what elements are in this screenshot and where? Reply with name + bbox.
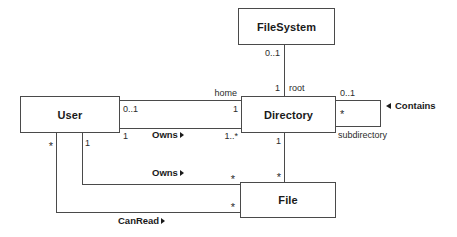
association-name-contains: Contains [395, 101, 436, 111]
multiplicity-directory-contains-upper: 0..1 [340, 88, 355, 98]
role-user-home: home [214, 88, 237, 98]
navigability-triangle-left-icon [386, 103, 391, 109]
multiplicity-file-canread: * [231, 203, 235, 211]
multiplicity-directory-file-bottom: * [277, 173, 281, 181]
class-box-user[interactable]: User [20, 96, 120, 133]
multiplicity-user-owns-file: 1 [85, 138, 90, 148]
association-name-owns-directory: Owns [152, 129, 178, 140]
class-box-directory[interactable]: Directory [241, 96, 336, 133]
class-name-user: User [58, 109, 83, 121]
multiplicity-user-owns-directory: 1 [123, 131, 128, 141]
association-name-owns-file: Owns [152, 167, 178, 178]
association-name-canread: CanRead [118, 215, 159, 226]
role-directory-subdirectory: subdirectory [338, 130, 387, 140]
association-label-owns-file: Owns [152, 168, 184, 178]
uml-class-diagram: FileSystem User Directory File 0..1 1 ro… [0, 0, 457, 237]
class-box-filesystem[interactable]: FileSystem [238, 8, 335, 45]
class-box-file[interactable]: File [240, 182, 336, 218]
multiplicity-user-home: 0..1 [123, 104, 138, 114]
role-directory-root: root [289, 83, 305, 93]
multiplicity-user-canread: * [49, 142, 53, 150]
multiplicity-directory-contains-lower: * [340, 110, 344, 118]
class-name-file: File [278, 194, 297, 206]
multiplicity-file-owns: * [231, 175, 235, 183]
class-name-filesystem: FileSystem [257, 21, 316, 33]
multiplicity-directory-home: 1 [233, 104, 238, 114]
multiplicity-filesystem-root: 0..1 [265, 48, 280, 58]
multiplicity-directory-root: 1 [275, 83, 280, 93]
association-label-contains: Contains [386, 101, 436, 111]
association-label-canread: CanRead [118, 216, 165, 226]
navigability-triangle-right-icon [180, 132, 184, 138]
class-name-directory: Directory [264, 109, 313, 121]
navigability-triangle-right-icon-3 [161, 218, 165, 224]
association-label-owns-directory: Owns [152, 130, 184, 140]
multiplicity-directory-owns: 1..* [224, 131, 238, 141]
navigability-triangle-right-icon-2 [180, 170, 184, 176]
multiplicity-directory-file-top: 1 [276, 136, 281, 146]
